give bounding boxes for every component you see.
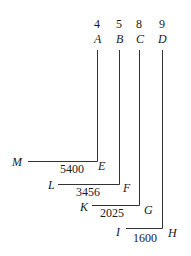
number-c: 8 [136,18,142,30]
line-c-g-k [92,50,140,206]
label-b: B [116,33,123,45]
value-3456: 3456 [76,186,100,198]
line-a-e-m [28,50,98,162]
number-d: 9 [159,18,165,30]
label-i: I [116,226,120,238]
label-c: C [136,33,144,45]
label-f: F [123,182,130,194]
value-2025: 2025 [100,207,124,219]
value-1600: 1600 [133,232,157,244]
number-b: 5 [116,18,122,30]
label-d: D [158,33,167,45]
label-k: K [80,201,88,213]
value-5400: 5400 [60,163,84,175]
line-d-h-i [126,50,163,229]
label-g: G [144,204,153,216]
label-l: L [48,179,55,191]
label-h: H [168,227,177,239]
label-m: M [12,156,22,168]
label-e: E [98,160,105,172]
number-a: 4 [94,18,100,30]
label-a: A [94,33,101,45]
